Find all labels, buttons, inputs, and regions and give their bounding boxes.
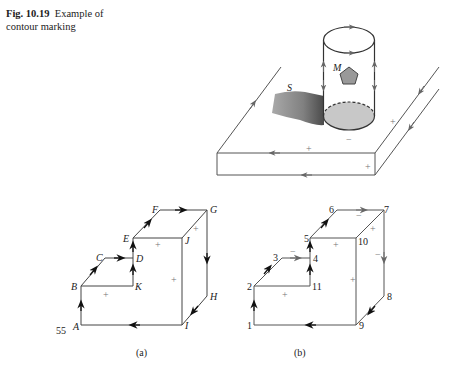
vertex-h: H [209,291,218,302]
vertex-7: 7 [384,204,389,215]
label-s: S [287,82,292,93]
vertex-6: 6 [329,204,334,215]
shadow-region [272,91,324,125]
label-m: M [332,62,342,73]
sign-plus: + [103,289,109,300]
vertex-11: 11 [312,281,322,292]
vertex-k: K [134,281,143,292]
sign-plus: + [350,274,356,285]
sign-minus: − [356,210,362,221]
sign-minus: − [375,249,381,260]
sign-plus-top: + [306,143,312,154]
vertex-g: G [210,204,217,215]
top-figure: M S − + + + [217,27,439,175]
sign-plus: + [171,274,177,285]
sign-plus: + [333,239,339,250]
vertex-4: 4 [313,253,318,264]
sign-plus: + [193,223,199,234]
figure-b: 1 2 3 4 5 6 7 8 9 10 11 + + + + − − − (b… [247,204,392,359]
vertex-a: A [72,321,80,332]
sign-plus-side: + [365,161,371,172]
vertex-i: I [184,320,189,331]
sublabel-a: (a) [136,347,147,359]
vertex-f: F [151,204,159,215]
vertex-j: J [185,235,190,246]
sublabel-b: (b) [294,347,306,359]
figure-a: A 55 B C D E F G H I J K + + + + (a) [56,204,218,359]
sign-minus-bottom: − [346,134,352,145]
sign-plus: + [282,289,288,300]
vertex-8: 8 [387,291,392,302]
vertex-9: 9 [359,320,364,331]
sign-plus-right: + [390,116,396,127]
sign-minus: − [290,246,296,257]
pentagon-point-m [340,67,358,84]
vertex-d: D [135,253,144,264]
sign-plus: + [370,223,376,234]
vertex-3: 3 [273,252,278,263]
vertex-e: E [122,233,129,244]
vertex-b: B [71,281,77,292]
vertex-1: 1 [247,320,252,331]
corner-number: 55 [56,325,66,336]
sign-plus: + [155,239,161,250]
vertex-c: C [96,252,103,263]
vertex-5: 5 [304,233,309,244]
vertex-10: 10 [358,236,368,247]
vertex-2: 2 [247,281,252,292]
diagram-canvas: M S − + + + A 55 B [0,0,452,374]
